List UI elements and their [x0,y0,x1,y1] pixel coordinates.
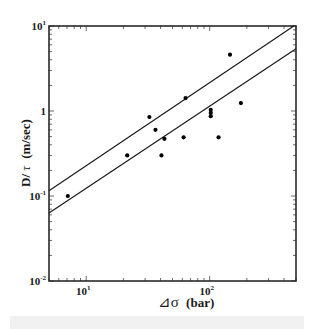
bottom-strip [10,316,304,329]
x-tick-label: 101 [76,284,91,297]
y-axis-symbol: τ [18,165,33,171]
x-axis-unit: (bar) [186,295,214,310]
upper-bound-line [49,26,294,191]
data-point [159,153,163,157]
y-axis-main: D/ [18,174,33,187]
data-point [147,115,151,119]
y-axis-title: D/ τ (m/sec) [18,119,33,187]
data-point [239,101,243,105]
data-point [182,135,186,139]
lower-bound-line [49,49,296,213]
data-point [216,135,220,139]
data-point [183,96,187,100]
data-points [66,53,243,199]
bound-lines [49,26,296,213]
y-axis-unit: (m/sec) [18,119,33,159]
data-point [228,53,232,57]
y-tick-label: 10-1 [29,189,46,202]
y-tick-label: 101 [32,19,47,32]
data-point [125,153,129,157]
y-tick-label: 1 [41,105,47,117]
x-axis-symbol: ⊿σ [158,294,179,310]
data-point [66,194,70,198]
x-axis-title: ⊿σ (bar) [158,294,215,310]
plot-frame [49,26,296,281]
tick-labels: 101102101110-110-2 [29,19,214,297]
y-tick-label: 10-2 [29,274,46,287]
data-point [153,128,157,132]
data-point [209,114,213,118]
scatter-chart: 101102101110-110-2 ⊿σ (bar) D/ τ (m/sec) [0,0,314,329]
axis-ticks [49,26,296,281]
data-point [162,137,166,141]
